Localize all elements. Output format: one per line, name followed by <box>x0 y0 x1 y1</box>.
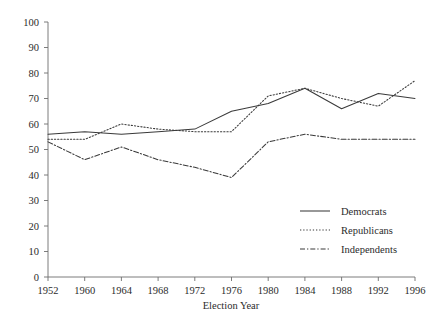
x-axis-tick-label: 1976 <box>221 285 242 296</box>
y-axis-tick-label: 100 <box>23 17 39 28</box>
y-axis-tick-label: 30 <box>29 195 40 206</box>
x-axis-tick-label: 1972 <box>184 285 205 296</box>
chart-canvas: 0102030405060708090100 19521960196419681… <box>0 0 429 330</box>
x-axis-tick-label: 1988 <box>331 285 352 296</box>
legend-label-republicans: Republicans <box>341 225 393 236</box>
y-axis-tick-label: 50 <box>29 144 40 155</box>
x-axis-title: Election Year <box>203 300 260 311</box>
x-axis-tick-label: 1984 <box>294 285 316 296</box>
y-axis-tick-label: 0 <box>34 272 39 283</box>
y-axis-tick-label: 70 <box>29 93 40 104</box>
x-axis-tick-label: 1980 <box>258 285 279 296</box>
y-axis-tick-label: 20 <box>29 221 40 232</box>
y-axis-tick-label: 10 <box>29 246 40 257</box>
x-axis-tick-label: 1996 <box>405 285 426 296</box>
x-axis-tick-label: 1968 <box>148 285 169 296</box>
x-axis-tick-label: 1992 <box>368 285 389 296</box>
legend-label-independents: Independents <box>341 244 397 255</box>
line-chart: 0102030405060708090100 19521960196419681… <box>0 0 429 330</box>
y-axis-tick-label: 40 <box>29 170 40 181</box>
chart-background <box>0 0 429 330</box>
x-axis-tick-label: 1964 <box>111 285 133 296</box>
y-axis-tick-label: 60 <box>29 119 40 130</box>
x-axis-tick-label: 1952 <box>38 285 59 296</box>
legend-label-democrats: Democrats <box>341 206 386 217</box>
y-axis-tick-label: 90 <box>29 42 40 53</box>
y-axis-tick-label: 80 <box>29 68 40 79</box>
x-axis-tick-label: 1960 <box>74 285 95 296</box>
